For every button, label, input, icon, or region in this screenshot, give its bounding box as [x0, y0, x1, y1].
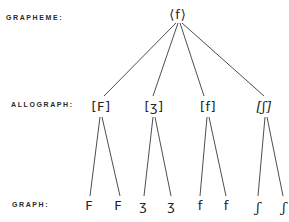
graph-node-8: ʃ [282, 201, 286, 214]
grapheme-node: ⟨f⟩ [169, 8, 187, 21]
edge-grapheme-allograph-3 [180, 23, 204, 96]
graph-node-5: f [198, 199, 203, 212]
edge-allograph-4-graph-7 [258, 117, 265, 196]
edge-allograph-4-graph-8 [267, 117, 283, 196]
graph-node-6: f [224, 199, 229, 212]
edge-grapheme-allograph-4 [182, 23, 264, 96]
graph-node-4: ʒ [167, 199, 175, 212]
edge-allograph-2-graph-4 [155, 117, 171, 196]
allograph-node-3: [f] [200, 100, 216, 113]
graph-node-7: ʃ [256, 201, 260, 214]
allograph-node-4: [ʃ] [256, 100, 271, 113]
edge-allograph-2-graph-3 [144, 117, 153, 196]
graph-node-3: ʒ [139, 199, 147, 212]
graph-node-1: F [85, 199, 92, 212]
edge-allograph-3-graph-6 [209, 117, 226, 196]
allograph-node-2: [ʒ] [144, 100, 163, 113]
edge-allograph-1-graph-1 [90, 117, 100, 196]
edge-allograph-1-graph-2 [102, 117, 120, 196]
graph-node-2: F [114, 199, 121, 212]
edge-allograph-3-graph-5 [200, 117, 207, 196]
allograph-node-1: [F] [91, 100, 110, 113]
